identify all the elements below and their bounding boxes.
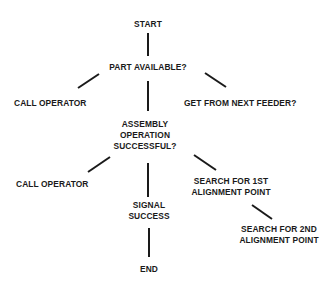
node-part-available: PART AVAILABLE? (109, 62, 186, 73)
edge-search-1st-search-2nd (252, 205, 272, 219)
node-end: END (140, 264, 158, 275)
node-search-1st: SEARCH FOR 1ST ALIGNMENT POINT (191, 176, 270, 198)
node-call-operator-2: CALL OPERATOR (16, 179, 89, 190)
edge-assembly-search-1st (194, 155, 216, 170)
node-label-line-2: ALIGNMENT POINT (191, 187, 270, 198)
node-label: GET FROM NEXT FEEDER? (184, 98, 296, 109)
node-label: CALL OPERATOR (16, 179, 89, 190)
node-label-line-3: SUCCESSFUL? (114, 141, 177, 152)
node-label-line-1: SIGNAL (128, 200, 169, 211)
node-label: END (140, 264, 158, 275)
node-signal-success: SIGNAL SUCCESS (128, 200, 169, 222)
node-search-2nd: SEARCH FOR 2ND ALIGNMENT POINT (239, 224, 318, 246)
node-start: START (134, 19, 162, 30)
node-label-line-1: SEARCH FOR 2ND (239, 224, 318, 235)
node-label: PART AVAILABLE? (109, 62, 186, 73)
node-label: CALL OPERATOR (14, 98, 87, 109)
node-label: START (134, 19, 162, 30)
node-assembly-successful: ASSEMBLY OPERATION SUCCESSFUL? (114, 119, 177, 152)
node-call-operator-1: CALL OPERATOR (14, 98, 87, 109)
flowchart-canvas: START PART AVAILABLE? CALL OPERATOR GET … (0, 0, 334, 286)
edge-part-available-call-operator (78, 74, 99, 88)
node-label-line-1: SEARCH FOR 1ST (191, 176, 270, 187)
node-get-from-next-feeder: GET FROM NEXT FEEDER? (184, 98, 296, 109)
node-label-line-1: ASSEMBLY (114, 119, 177, 130)
edge-assembly-call-operator (88, 157, 110, 172)
node-label-line-2: ALIGNMENT POINT (239, 235, 318, 246)
node-label-line-2: SUCCESS (128, 211, 169, 222)
edge-part-available-next-feeder (205, 73, 226, 87)
node-label-line-2: OPERATION (114, 130, 177, 141)
